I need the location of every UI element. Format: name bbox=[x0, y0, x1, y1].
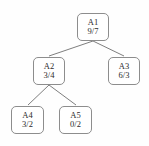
tree-node-a2-value: 3/4 bbox=[43, 71, 54, 80]
edge-a1-a2 bbox=[49, 41, 93, 56]
tree-node-a4[interactable]: A4 3/2 bbox=[11, 106, 44, 134]
tree-node-a4-value: 3/2 bbox=[22, 120, 33, 129]
tree-diagram: A1 9/7 A2 3/4 A3 6/3 A4 3/2 A5 0/2 bbox=[0, 0, 149, 146]
tree-node-a1-value: 9/7 bbox=[87, 27, 98, 36]
tree-node-a3[interactable]: A3 6/3 bbox=[108, 57, 140, 85]
edge-a2-a4 bbox=[28, 85, 49, 105]
tree-node-a3-value: 6/3 bbox=[118, 71, 129, 80]
tree-node-a2[interactable]: A2 3/4 bbox=[33, 57, 65, 85]
tree-node-a1[interactable]: A1 9/7 bbox=[77, 13, 109, 41]
tree-node-a5-value: 0/2 bbox=[70, 120, 81, 129]
edge-a2-a5 bbox=[49, 85, 76, 105]
edge-a1-a3 bbox=[93, 41, 124, 56]
tree-node-a5[interactable]: A5 0/2 bbox=[59, 106, 92, 134]
